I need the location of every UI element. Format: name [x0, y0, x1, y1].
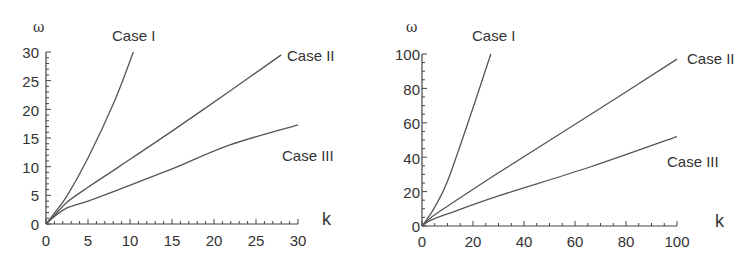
x-tick-label: 60	[560, 234, 590, 249]
x-tick-label: 20	[458, 234, 488, 249]
series-label-case-1: Case I	[472, 28, 515, 43]
y-tick-label: 40	[390, 151, 420, 166]
series-label-case-3: Case III	[667, 154, 719, 169]
y-tick-label: 80	[390, 82, 420, 97]
chart-right-plot	[0, 0, 749, 265]
curve-case-3	[422, 137, 677, 226]
x-tick-label: 40	[509, 234, 539, 249]
series-label-case-2: Case II	[687, 51, 735, 66]
y-tick-label: 100	[390, 47, 420, 62]
x-tick-label: 0	[407, 234, 437, 249]
x-tick-label: 80	[611, 234, 641, 249]
x-tick-label: 100	[662, 234, 692, 249]
figure: ω k 30 25 20 15 10 5 0 0 5 10 15 20 25 3…	[0, 0, 749, 265]
y-tick-label: 60	[390, 116, 420, 131]
y-tick-label: 20	[390, 185, 420, 200]
y-axis-label: ω	[406, 20, 417, 35]
y-tick-label: 0	[390, 219, 420, 234]
curve-case-2	[422, 59, 677, 226]
x-axis-label: k	[715, 214, 724, 229]
